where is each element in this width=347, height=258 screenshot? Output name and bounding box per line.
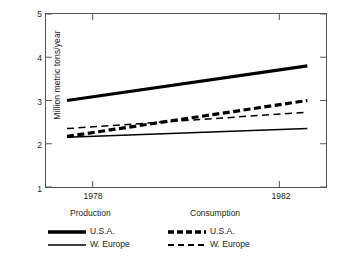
y-tick-label-2: 2 [37, 141, 42, 150]
x-tick-label-1982: 1982 [272, 192, 291, 201]
legend-group-production: Production U.S.A. W. Europe [48, 208, 130, 251]
legend-swatch-dashed-thick [168, 227, 206, 237]
legend-label-production-usa: U.S.A. [90, 227, 115, 236]
y-axis-title: Million metric tons/year [52, 0, 62, 150]
legend-group-consumption: Consumption U.S.A. W. Europe [168, 208, 250, 251]
legend-item-production-usa[interactable]: U.S.A. [48, 225, 130, 238]
legend-heading-production: Production [48, 208, 130, 218]
legend-label-consumption-usa: U.S.A. [210, 227, 235, 236]
line-chart-figure: 12345 19781982 Million metric tons/year … [0, 0, 347, 258]
legend-swatch-solid-thick [48, 227, 86, 237]
legend-label-production-weurope: W. Europe [90, 240, 130, 249]
legend-swatch-dashed-thin [168, 240, 206, 250]
series-line-0 [67, 66, 307, 101]
legend-item-consumption-weurope[interactable]: W. Europe [168, 238, 250, 251]
legend-heading-consumption: Consumption [168, 208, 250, 218]
tick-marks [46, 14, 326, 187]
series-line-3 [67, 112, 307, 128]
series-line-2 [67, 101, 307, 137]
x-tick-label-1978: 1978 [84, 192, 103, 201]
legend-label-consumption-weurope: W. Europe [210, 240, 250, 249]
y-tick-label-4: 4 [37, 54, 42, 63]
legend-item-production-weurope[interactable]: W. Europe [48, 238, 130, 251]
data-series-lines [67, 66, 307, 137]
legend-item-consumption-usa[interactable]: U.S.A. [168, 225, 250, 238]
plot-area: 12345 19781982 Million metric tons/year [45, 13, 327, 188]
legend-swatch-solid-thin [48, 240, 86, 250]
y-tick-label-3: 3 [37, 97, 42, 106]
y-tick-label-5: 5 [37, 10, 42, 19]
chart-legend: Production U.S.A. W. Europe Consumption [0, 208, 347, 258]
chart-plot-svg [46, 14, 326, 187]
y-tick-label-1: 1 [37, 185, 42, 194]
